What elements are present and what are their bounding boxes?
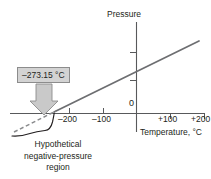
callout-arrow-icon — [30, 84, 58, 115]
x-axis-title: Temperature, °C — [140, 128, 202, 137]
region-note-line-3: region — [4, 162, 112, 174]
x-tick-label-minus-100: –100 — [92, 115, 111, 124]
origin-zero-label: 0 — [129, 99, 134, 108]
pressure-temperature-chart: Pressure Temperature, °C 0 –200 –100 +10… — [0, 0, 211, 179]
region-note-line-1: Hypothetical — [4, 139, 112, 151]
hypothetical-region-note: Hypothetical negative-pressure region — [4, 139, 112, 174]
y-axis-title: Pressure — [107, 10, 141, 19]
x-tick-label-plus-100: +100 — [158, 115, 177, 124]
region-note-line-2: negative-pressure — [4, 151, 112, 163]
x-tick-label-plus-200: +200 — [191, 115, 210, 124]
ideal-gas-line — [54, 41, 199, 112]
real-gas-curve — [12, 113, 54, 136]
x-tick-label-minus-200: –200 — [58, 115, 77, 124]
absolute-zero-callout: –273.15 °C — [17, 67, 70, 83]
